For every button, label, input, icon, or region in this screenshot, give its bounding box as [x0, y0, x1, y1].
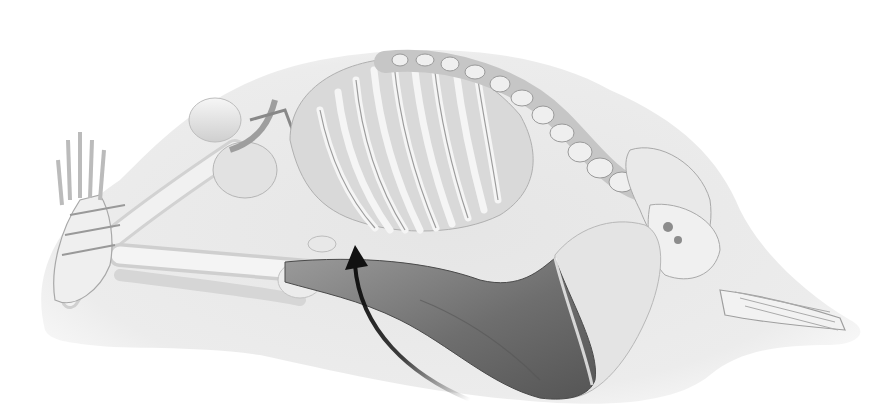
forward-fold-skeleton-figure — [0, 0, 888, 420]
anatomy-illustration — [0, 0, 888, 420]
